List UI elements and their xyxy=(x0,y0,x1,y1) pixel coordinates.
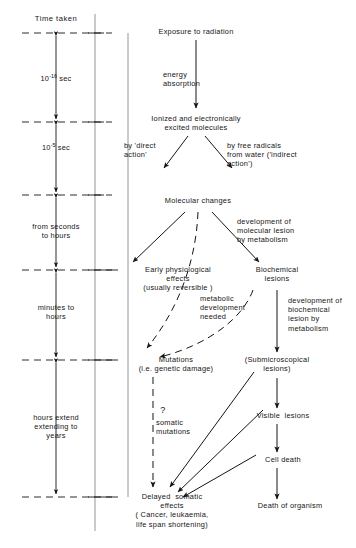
node-early-physiological: Early physiological effects (usually rev… xyxy=(143,265,212,293)
time-level-connectors xyxy=(88,33,118,497)
node-death-of-organism: Death of organism xyxy=(258,501,323,510)
time-interval-1: 10-16 sec xyxy=(40,72,71,84)
edge-direct-action: by 'direct action' xyxy=(124,141,156,159)
time-interval-1-exponent: -16 xyxy=(49,73,57,79)
time-interval-1-base: 10 xyxy=(40,74,49,83)
time-interval-1-unit: sec xyxy=(59,74,71,83)
node-biochemical-lesions: Biochemical lesions xyxy=(256,265,299,283)
edge-question-mark: ? xyxy=(160,406,165,415)
node-molecular-changes: Molecular changes xyxy=(165,196,231,205)
node-submicroscopical: (Submicroscopical lesions) xyxy=(245,355,310,373)
time-interval-2-unit: sec xyxy=(58,143,70,152)
time-interval-2: 10-5 sec xyxy=(42,141,70,153)
edge-metabolic-development: metabolic development needed xyxy=(200,294,245,322)
time-interval-3: from seconds to hours xyxy=(32,222,79,240)
time-interval-5: hours extend extending to years xyxy=(33,413,79,441)
node-ionized: Ionized and electronically excited molec… xyxy=(151,114,241,132)
edge-development-biochemical: development of biochemical lesion by met… xyxy=(288,296,342,333)
node-delayed-somatic: Delayed somatic effects ( Cancer, leukae… xyxy=(136,492,209,529)
time-interval-2-exponent: -5 xyxy=(51,142,56,148)
node-mutations: Mutations (i.e. genetic damage) xyxy=(139,355,214,373)
arrow-molecular-to-early xyxy=(133,212,185,262)
node-visible-lesions: Visible lesions xyxy=(257,411,310,420)
node-cell-death: Cell death xyxy=(265,455,301,464)
edge-energy-absorption: energy absorption xyxy=(163,70,200,88)
arrow-ionized-to-direct xyxy=(164,136,188,168)
time-axis-rules xyxy=(95,14,128,531)
time-interval-2-base: 10 xyxy=(42,143,51,152)
node-exposure: Exposure to radiation xyxy=(158,27,233,36)
edge-indirect-action: by free radicals from water ('indirect a… xyxy=(227,141,297,169)
diagram-canvas: Time taken 10-16 sec 10-5 sec from secon… xyxy=(0,0,356,548)
time-interval-4: minutes to hours xyxy=(38,303,75,321)
time-axis-header: Time taken xyxy=(35,14,77,23)
edge-development-molecular: development of molecular lesion by metab… xyxy=(237,217,294,245)
arrow-visible-to-delayed xyxy=(178,410,263,492)
edge-somatic-mutations: somatic mutations xyxy=(156,418,190,436)
